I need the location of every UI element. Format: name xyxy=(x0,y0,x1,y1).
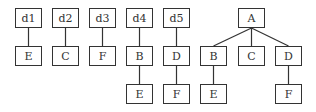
tree-node-d2: d2 xyxy=(52,8,79,28)
tree-node-f: F xyxy=(163,84,190,104)
tree-node-c: C xyxy=(52,46,79,66)
tree-node-c: C xyxy=(238,46,265,66)
tree-node-d: D xyxy=(275,46,302,66)
tree-node-e: E xyxy=(15,46,42,66)
tree-node-d5: d5 xyxy=(163,8,190,28)
tree-node-e: E xyxy=(200,84,227,104)
edges-layer xyxy=(0,0,316,112)
tree-node-e: E xyxy=(126,84,153,104)
edge xyxy=(214,28,252,46)
tree-node-d4: d4 xyxy=(126,8,153,28)
tree-node-f: F xyxy=(89,46,116,66)
tree-node-d: D xyxy=(163,46,190,66)
tree-node-a: A xyxy=(238,8,265,28)
tree-node-b: B xyxy=(200,46,227,66)
tree-node-f: F xyxy=(275,84,302,104)
tree-node-d1: d1 xyxy=(15,8,42,28)
tree-node-b: B xyxy=(126,46,153,66)
tree-node-d3: d3 xyxy=(89,8,116,28)
edge xyxy=(252,28,289,46)
